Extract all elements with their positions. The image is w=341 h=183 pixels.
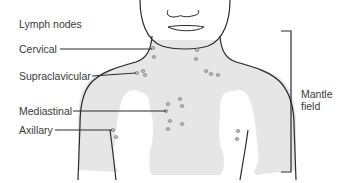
label-mantle: Mantle: [301, 88, 333, 100]
nose-outline: [167, 10, 199, 17]
mouth-outline: [168, 26, 204, 31]
mantle-field-shading: [78, 40, 296, 175]
label-axillary: Axillary: [19, 124, 53, 136]
label-supraclavicular: Supraclavicular: [19, 70, 91, 82]
diagram-heading: Lymph nodes: [19, 18, 82, 30]
label-mediastinal: Mediastinal: [19, 105, 72, 117]
label-cervical: Cervical: [19, 43, 57, 55]
label-field: field: [301, 100, 320, 112]
mantle-field-diagram: Lymph nodes Cervical Supraclavicular Med…: [0, 0, 341, 183]
